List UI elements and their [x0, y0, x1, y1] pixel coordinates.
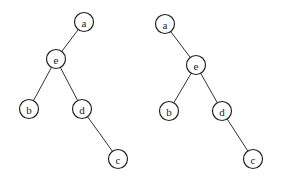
edge-a-e [171, 32, 191, 58]
tree-node-c: c [244, 150, 263, 169]
left-tree: a e b d c [20, 13, 128, 169]
edge-e-b [174, 73, 191, 103]
tree-node-d: d [73, 100, 92, 119]
tree-node-d: d [213, 102, 232, 121]
tree-node-c: c [109, 150, 128, 169]
node-label: d [219, 106, 225, 118]
right-tree-edges [171, 32, 248, 151]
node-label: c [251, 154, 256, 166]
tree-node-a: a [75, 13, 94, 32]
node-label: d [79, 104, 85, 116]
left-tree-edges [34, 30, 113, 152]
node-label: a [163, 19, 168, 31]
tree-node-b: b [20, 100, 39, 119]
edge-d-c [88, 117, 113, 152]
edge-e-d [201, 73, 218, 102]
node-label: c [116, 154, 121, 166]
edge-a-e [62, 30, 79, 52]
edge-e-b [34, 67, 52, 100]
node-label: a [82, 17, 87, 29]
node-label: b [26, 104, 32, 116]
tree-node-e: e [47, 50, 66, 69]
node-label: b [166, 106, 172, 118]
edge-e-d [60, 67, 77, 100]
right-tree: a e b d c [156, 15, 263, 169]
edge-d-c [227, 119, 248, 151]
node-label: e [54, 54, 59, 66]
tree-node-b: b [160, 102, 179, 121]
tree-node-a: a [156, 15, 175, 34]
tree-diagram-canvas: a e b d c a e b d c [0, 0, 281, 180]
tree-node-e: e [187, 56, 206, 75]
node-label: e [194, 60, 199, 72]
